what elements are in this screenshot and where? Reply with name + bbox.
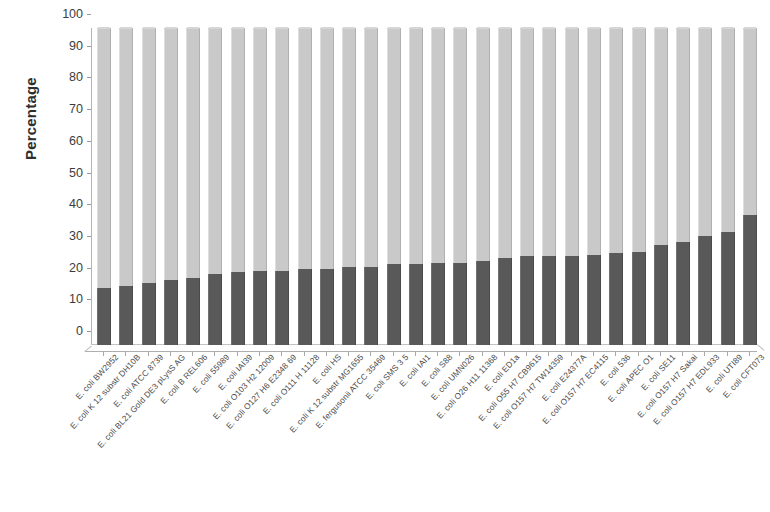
bar-segment-lower: [542, 256, 556, 345]
bar-column[interactable]: [498, 28, 512, 345]
bar-stack: [721, 28, 735, 345]
bar-column[interactable]: [320, 28, 334, 345]
bar-column[interactable]: [208, 28, 222, 345]
bar-stack: [164, 28, 178, 345]
bar-column[interactable]: [453, 28, 467, 345]
bar-segment-upper: [231, 28, 245, 272]
bar-column[interactable]: [698, 28, 712, 345]
bar-top-cap: [655, 27, 667, 29]
bar-segment-lower: [520, 256, 534, 345]
bar-column[interactable]: [476, 28, 490, 345]
bar-segment-lower: [320, 269, 334, 345]
bar-stack: [320, 28, 334, 345]
x-axis-depth-right: [757, 344, 765, 351]
bar-segment-upper: [431, 28, 445, 263]
bar-segment-lower: [453, 263, 467, 345]
bar-segment-upper: [743, 28, 757, 215]
bar-top-cap: [633, 27, 645, 29]
y-axis-title: Percentage: [22, 20, 39, 160]
bar-column[interactable]: [676, 28, 690, 345]
bar-column[interactable]: [119, 28, 133, 345]
bar-column[interactable]: [542, 28, 556, 345]
bar-segment-lower: [698, 236, 712, 345]
bar-stack: [698, 28, 712, 345]
bar-chart: Percentage 0102030405060708090100 E. col…: [0, 0, 770, 512]
bar-column[interactable]: [142, 28, 156, 345]
bar-top-cap: [543, 27, 555, 29]
bar-segment-lower: [676, 242, 690, 345]
bar-top-cap: [276, 27, 288, 29]
bar-column[interactable]: [721, 28, 735, 345]
bar-stack: [632, 28, 646, 345]
bar-top-cap: [410, 27, 422, 29]
bar-column[interactable]: [409, 28, 423, 345]
bar-top-cap: [254, 27, 266, 29]
bar-top-cap: [187, 27, 199, 29]
bar-column[interactable]: [632, 28, 646, 345]
bar-segment-upper: [476, 28, 490, 261]
bar-stack: [498, 28, 512, 345]
bar-column[interactable]: [520, 28, 534, 345]
bar-stack: [186, 28, 200, 345]
bar-column[interactable]: [298, 28, 312, 345]
y-tick-label: 100: [62, 7, 92, 21]
bar-column[interactable]: [186, 28, 200, 345]
bar-top-cap: [343, 27, 355, 29]
bar-segment-upper: [721, 28, 735, 232]
bar-column[interactable]: [342, 28, 356, 345]
bar-top-cap: [232, 27, 244, 29]
bar-stack: [431, 28, 445, 345]
bar-stack: [142, 28, 156, 345]
bar-top-cap: [722, 27, 734, 29]
bar-column[interactable]: [609, 28, 623, 345]
bar-stack: [654, 28, 668, 345]
bar-top-cap: [165, 27, 177, 29]
bar-stack: [364, 28, 378, 345]
bar-top-cap: [143, 27, 155, 29]
bar-segment-lower: [632, 252, 646, 346]
bar-top-cap: [521, 27, 533, 29]
bar-segment-lower: [275, 271, 289, 345]
bar-segment-upper: [298, 28, 312, 269]
y-tick-label: 60: [69, 134, 92, 148]
bar-top-cap: [299, 27, 311, 29]
bar-column[interactable]: [164, 28, 178, 345]
bar-segment-lower: [609, 253, 623, 345]
bar-column[interactable]: [431, 28, 445, 345]
plot-area: 0102030405060708090100: [92, 28, 760, 345]
bar-stack: [119, 28, 133, 345]
x-axis-labels: E. coli BW2952E. coli K 12 substr DH10BE…: [92, 352, 770, 502]
bar-segment-lower: [721, 232, 735, 345]
bar-column[interactable]: [654, 28, 668, 345]
bar-stack: [208, 28, 222, 345]
bar-segment-lower: [476, 261, 490, 345]
bar-column[interactable]: [253, 28, 267, 345]
bar-column[interactable]: [387, 28, 401, 345]
bar-column[interactable]: [364, 28, 378, 345]
bar-top-cap: [209, 27, 221, 29]
bar-column[interactable]: [231, 28, 245, 345]
bar-column[interactable]: [587, 28, 601, 345]
bar-column[interactable]: [275, 28, 289, 345]
bar-column[interactable]: [565, 28, 579, 345]
y-tick-label: 50: [69, 166, 92, 180]
bar-top-cap: [388, 27, 400, 29]
bar-segment-upper: [632, 28, 646, 251]
bar-segment-upper: [97, 28, 111, 288]
bar-segment-upper: [342, 28, 356, 267]
bar-stack: [587, 28, 601, 345]
bar-top-cap: [98, 27, 110, 29]
bar-column[interactable]: [743, 28, 757, 345]
bar-top-cap: [321, 27, 333, 29]
bar-stack: [97, 28, 111, 345]
bar-segment-lower: [498, 258, 512, 345]
bar-top-cap: [677, 27, 689, 29]
bar-segment-upper: [164, 28, 178, 280]
bar-segment-upper: [520, 28, 534, 256]
bar-column[interactable]: [97, 28, 111, 345]
bar-segment-lower: [298, 269, 312, 345]
bar-segment-lower: [142, 283, 156, 345]
bar-segment-lower: [186, 278, 200, 345]
bar-stack: [275, 28, 289, 345]
bar-segment-upper: [364, 28, 378, 267]
